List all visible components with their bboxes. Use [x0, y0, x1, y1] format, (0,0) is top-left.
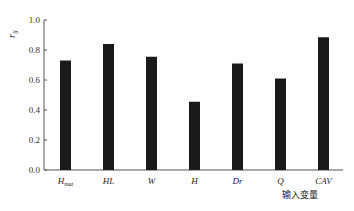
y-tick-label: 0.4: [29, 105, 41, 115]
x-axis-title: 输入变量: [282, 189, 318, 200]
x-tick-label: Hmat: [57, 176, 74, 187]
y-axis: 0.00.20.40.60.81.0: [29, 15, 47, 175]
y-tick-label: 0.6: [29, 75, 41, 85]
y-tick-label: 0.2: [29, 135, 40, 145]
x-tick-label: Dr: [231, 176, 242, 186]
bar: [60, 61, 71, 171]
bar: [318, 37, 329, 170]
y-tick-label: 1.0: [29, 15, 41, 25]
x-tick-label: H: [190, 176, 198, 186]
x-tick-label: Q: [277, 176, 284, 186]
bar: [189, 102, 200, 170]
y-tick-label: 0.0: [29, 165, 41, 175]
bar: [146, 57, 157, 170]
bar-chart: 0.00.20.40.60.81.0 HmatHLWHDrQCAV rij 输入…: [0, 0, 354, 211]
bar: [103, 44, 114, 170]
x-tick-label: CAV: [315, 176, 333, 186]
bar: [232, 64, 243, 171]
y-axis-title: rij: [6, 30, 19, 38]
category-labels: HmatHLWHDrQCAV: [57, 176, 334, 187]
x-tick-label: HL: [102, 176, 115, 186]
x-tick-label: W: [148, 176, 157, 186]
y-tick-label: 0.8: [29, 45, 41, 55]
bars: [60, 37, 329, 170]
bar: [275, 79, 286, 171]
